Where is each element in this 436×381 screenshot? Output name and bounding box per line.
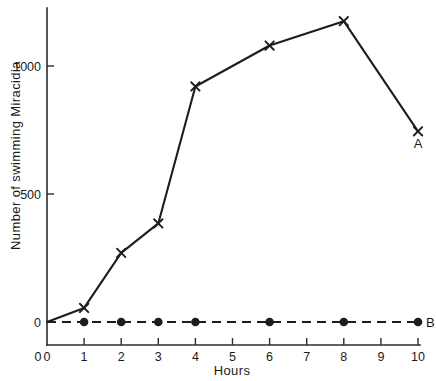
y-tick-label: 0 [34,316,41,330]
series-label-b: B [426,315,435,330]
y-tick-label: 1000 [13,60,41,74]
marker-cross-a [414,127,422,135]
marker-dot-b [154,318,163,327]
marker-dot-b [265,318,274,327]
chart-figure: Number of swimming Miracidia Hours 05001… [0,0,436,381]
x-tick-label: 7 [303,350,310,364]
marker-dot-b [80,318,89,327]
x-origin-label: 0 [35,350,42,364]
x-tick-label: 6 [266,350,273,364]
x-tick-label: 9 [377,350,384,364]
marker-dot-b [117,318,126,327]
x-tick-label: 8 [340,350,347,364]
series-end-labels: AB [414,136,435,330]
series-lines [47,21,418,322]
x-tick-label: 1 [81,350,88,364]
marker-dot-b [340,318,349,327]
y-axis-title: Number of swimming Miracidia [8,61,23,250]
x-tick-label: 5 [229,350,236,364]
series-label-a: A [414,136,423,151]
x-axis-ticks: 012345678910 [44,338,425,364]
marker-cross-a [117,249,125,257]
origin-label: 0 [35,350,42,364]
series-line-a [47,21,418,322]
x-axis-title: Hours [214,363,251,378]
x-tick-label: 4 [192,350,199,364]
x-tick-label: 0 [44,350,51,364]
marker-dot-b [414,318,423,327]
x-tick-label: 2 [118,350,125,364]
marker-dot-b [191,318,200,327]
y-tick-label: 500 [20,188,41,202]
series-markers [80,17,423,326]
x-tick-label: 3 [155,350,162,364]
x-tick-label: 10 [411,350,425,364]
line-chart: Number of swimming Miracidia Hours 05001… [0,0,436,381]
